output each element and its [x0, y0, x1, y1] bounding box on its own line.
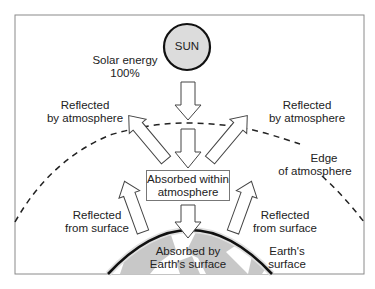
reflected-surface-left-label: Reflected from surface	[62, 209, 132, 235]
incoming-arrow-icon	[175, 82, 201, 120]
edge-of-atmosphere-label: Edge of atmosphere	[275, 152, 355, 178]
solar-energy-label: Solar energy 100%	[90, 54, 160, 80]
label-line2: by atmosphere	[40, 112, 130, 125]
atmosphere-edge-arc-right	[322, 176, 364, 222]
label-line2: Earth's surface	[148, 258, 228, 271]
reflected-atmosphere-right-label: Reflected by atmosphere	[262, 99, 352, 125]
absorbed-within-atmosphere-box: Absorbed within atmosphere	[146, 170, 230, 201]
label-line1: Reflected	[250, 209, 320, 222]
label-line2: of atmosphere	[275, 165, 355, 178]
label-line1: Absorbed within	[147, 173, 229, 186]
reflected-atmosphere-left-label: Reflected by atmosphere	[40, 99, 130, 125]
label-line1: Absorbed by	[148, 245, 228, 258]
to-atmosphere-arrow-icon	[175, 129, 201, 168]
sun-label: SUN	[163, 40, 211, 52]
label-line1: Reflected	[40, 99, 130, 112]
label-line2: by atmosphere	[262, 112, 352, 125]
label-line1: Reflected	[262, 99, 352, 112]
label-line1: Reflected	[62, 209, 132, 222]
label-line2: surface	[262, 258, 312, 271]
label-line2: from surface	[250, 222, 320, 235]
solar-energy-line1: Solar energy	[90, 54, 160, 67]
earths-surface-label: Earth's surface	[262, 245, 312, 271]
label-line2: atmosphere	[147, 186, 229, 199]
label-line1: Earth's	[262, 245, 312, 258]
label-line2: from surface	[62, 222, 132, 235]
solar-energy-line2: 100%	[90, 67, 160, 80]
reflected-surface-right-label: Reflected from surface	[250, 209, 320, 235]
reflected-atmosphere-right-arrow-icon	[202, 108, 256, 167]
label-line1: Edge	[275, 152, 355, 165]
absorbed-by-surface-label: Absorbed by Earth's surface	[148, 245, 228, 271]
